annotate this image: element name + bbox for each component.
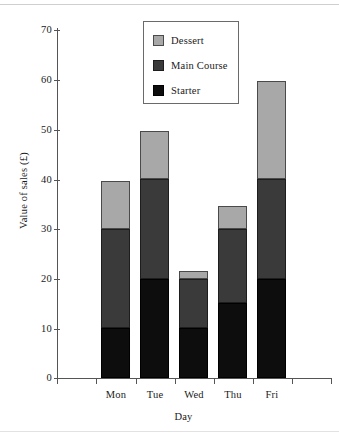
bar-segment-tue-dessert xyxy=(140,131,169,179)
legend-label-main-course: Main Course xyxy=(171,60,228,71)
y-tick-70 xyxy=(54,30,60,31)
x-tick-6 xyxy=(292,378,293,384)
y-tick-label-10: 10 xyxy=(12,324,52,334)
legend-entry-starter: Starter xyxy=(153,84,200,96)
x-axis-line xyxy=(57,378,331,379)
bar-segment-thu-dessert xyxy=(218,206,247,229)
bar-segment-thu-starter xyxy=(218,303,247,378)
x-tick-7 xyxy=(331,378,332,384)
legend-label-dessert: Dessert xyxy=(171,35,204,46)
y-tick-label-20: 20 xyxy=(12,274,52,284)
y-tick-10 xyxy=(54,329,60,330)
legend-entry-dessert: Dessert xyxy=(153,34,204,46)
bar-segment-mon-dessert xyxy=(101,181,130,229)
y-tick-30 xyxy=(54,229,60,230)
bar-segment-tue-main-course xyxy=(140,179,169,278)
legend-swatch-dessert-icon xyxy=(153,35,164,46)
y-tick-label-70: 70 xyxy=(12,25,52,35)
x-tick-5 xyxy=(253,378,254,384)
x-tick-3 xyxy=(175,378,176,384)
legend-label-starter: Starter xyxy=(171,85,200,96)
y-tick-label-0: 0 xyxy=(12,373,52,383)
y-tick-label-60: 60 xyxy=(12,75,52,85)
bar-mon xyxy=(101,30,130,378)
stacked-bar-chart: 70 60 50 40 30 20 10 0 Value of sales (£… xyxy=(0,0,339,436)
legend-swatch-starter-icon xyxy=(153,85,164,96)
x-tick-0 xyxy=(57,378,58,384)
bar-segment-fri-dessert xyxy=(257,81,286,179)
bar-fri xyxy=(257,30,286,378)
x-tick-label-fri: Fri xyxy=(246,389,298,401)
bar-segment-fri-main-course xyxy=(257,179,286,278)
bar-segment-tue-starter xyxy=(140,279,169,378)
scan-artifact-line-bottom xyxy=(0,431,339,432)
y-tick-20 xyxy=(54,279,60,280)
x-tick-1 xyxy=(96,378,97,384)
x-axis-title: Day xyxy=(0,411,339,422)
bar-segment-thu-main-course xyxy=(218,229,247,304)
bar-segment-mon-main-course xyxy=(101,229,130,328)
bar-segment-wed-starter xyxy=(179,328,208,378)
x-axis-title-text: Day xyxy=(174,411,192,422)
x-tick-2 xyxy=(136,378,137,384)
y-tick-40 xyxy=(54,180,60,181)
bar-segment-wed-dessert xyxy=(179,271,208,279)
legend: Dessert Main Course Starter xyxy=(143,21,239,104)
bar-segment-fri-starter xyxy=(257,279,286,378)
scan-artifact-line-top xyxy=(0,4,339,5)
bar-segment-mon-starter xyxy=(101,328,130,378)
legend-entry-main-course: Main Course xyxy=(153,59,228,71)
y-axis-title: Value of sales (£) xyxy=(18,121,29,261)
x-tick-4 xyxy=(214,378,215,384)
bar-segment-wed-main-course xyxy=(179,279,208,329)
y-tick-60 xyxy=(54,80,60,81)
y-tick-50 xyxy=(54,130,60,131)
legend-swatch-main-course-icon xyxy=(153,60,164,71)
